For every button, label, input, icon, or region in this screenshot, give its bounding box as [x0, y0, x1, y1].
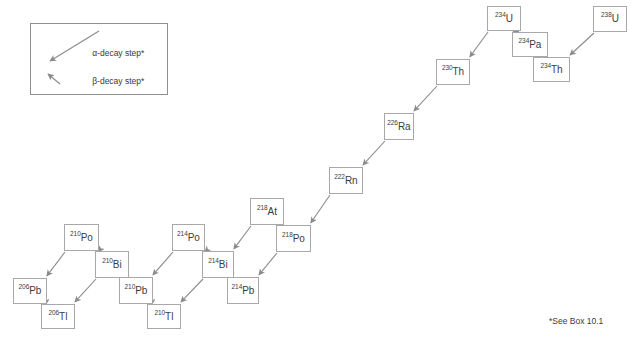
- nuclide-label: 230Th: [442, 67, 464, 77]
- nuclide-box-tl210: 210Tl: [147, 304, 181, 329]
- nuclide-mass-number: 214: [232, 283, 243, 290]
- nuclide-box-po214: 214Po: [172, 224, 205, 251]
- nuclide-label: 218At: [257, 206, 277, 216]
- nuclide-box-tl206: 206Tl: [41, 304, 75, 329]
- nuclide-mass-number: 218: [257, 204, 268, 211]
- alpha-decay-arrow-u234-to-th230: [470, 32, 488, 57]
- nuclide-label: 210Bi: [102, 259, 121, 269]
- nuclide-mass-number: 210: [102, 257, 113, 264]
- nuclide-box-pa234: 234Pa: [512, 32, 548, 57]
- nuclide-element-symbol: Po: [188, 231, 200, 242]
- nuclide-label: 218Po: [282, 233, 305, 243]
- nuclide-label: 234U: [495, 13, 513, 23]
- nuclide-label: 210Pb: [125, 285, 148, 295]
- nuclide-element-symbol: Pb: [135, 284, 147, 295]
- nuclide-box-th230: 230Th: [436, 59, 470, 85]
- nuclide-element-symbol: Th: [452, 66, 464, 77]
- nuclide-element-symbol: Th: [551, 63, 563, 74]
- alpha-decay-arrow-po210-to-pb206: [47, 252, 65, 276]
- nuclide-box-pb214: 214Pb: [227, 277, 259, 304]
- nuclide-mass-number: 210: [70, 230, 81, 237]
- nuclide-element-symbol: Bi: [113, 258, 122, 269]
- nuclide-label: 210Po: [70, 232, 93, 242]
- nuclide-mass-number: 238: [601, 11, 612, 18]
- nuclide-label: 206Pb: [19, 286, 42, 296]
- nuclide-mass-number: 214: [177, 230, 188, 237]
- nuclide-mass-number: 210: [155, 309, 166, 316]
- legend-label-beta: β-decay step*: [92, 76, 144, 86]
- nuclide-box-ra226: 226Ra: [384, 113, 414, 140]
- nuclide-label: 226Ra: [387, 121, 410, 131]
- nuclide-box-u238: 238U: [593, 6, 627, 32]
- nuclide-element-symbol: U: [612, 13, 619, 24]
- nuclide-mass-number: 218: [282, 231, 293, 238]
- nuclide-box-po218: 218Po: [276, 225, 311, 252]
- nuclide-mass-number: 210: [125, 283, 136, 290]
- alpha-decay-arrow-th230-to-ra226: [414, 86, 437, 111]
- nuclide-element-symbol: Po: [81, 231, 93, 242]
- alpha-decay-arrow-ra226-to-rn222: [363, 141, 385, 165]
- nuclide-box-bi214: 214Bi: [202, 251, 234, 278]
- nuclide-element-symbol: U: [506, 12, 513, 23]
- nuclide-mass-number: 214: [208, 257, 219, 264]
- nuclide-label: 234Th: [540, 64, 562, 74]
- nuclide-box-th234: 234Th: [533, 57, 570, 82]
- nuclide-element-symbol: At: [268, 205, 277, 216]
- nuclide-element-symbol: Ra: [398, 120, 411, 131]
- nuclide-mass-number: 206: [19, 283, 30, 290]
- nuclide-mass-number: 222: [334, 173, 345, 180]
- alpha-decay-arrow-po218-to-pb214: [259, 253, 277, 275]
- nuclide-box-at218: 218At: [250, 198, 284, 225]
- alpha-decay-arrow-bi214-to-tl210: [181, 279, 203, 302]
- nuclide-box-pb206: 206Pb: [13, 278, 47, 304]
- footnote-text: *See Box 10.1: [549, 316, 603, 326]
- nuclide-element-symbol: Tl: [59, 310, 67, 321]
- nuclide-mass-number: 226: [387, 119, 398, 126]
- nuclide-element-symbol: Pb: [29, 285, 41, 296]
- nuclide-element-symbol: Po: [293, 232, 305, 243]
- legend-label-alpha: α-decay step*: [92, 48, 144, 58]
- nuclide-mass-number: 206: [49, 309, 60, 316]
- alpha-decay-arrow-bi210-to-tl206: [75, 279, 96, 302]
- nuclide-label: 210Tl: [155, 311, 174, 321]
- nuclide-element-symbol: Rn: [345, 174, 358, 185]
- nuclide-element-symbol: Pa: [529, 38, 541, 49]
- nuclide-label: 214Bi: [208, 259, 227, 269]
- alpha-decay-arrow-po214-to-pb210: [153, 252, 173, 275]
- alpha-decay-arrow-u238-to-th234: [570, 33, 594, 55]
- decay-series-diagram: 238U234Th234Pa234U230Th226Ra222Rn218At21…: [0, 0, 640, 342]
- nuclide-mass-number: 234: [540, 62, 551, 69]
- nuclide-box-bi210: 210Bi: [95, 251, 129, 278]
- nuclide-box-po210: 210Po: [64, 224, 99, 251]
- beta-arrow-icon: [48, 74, 60, 84]
- nuclide-element-symbol: Bi: [219, 258, 228, 269]
- nuclide-mass-number: 230: [442, 64, 453, 71]
- nuclide-mass-number: 234: [519, 37, 530, 44]
- legend-box: α-decay step* β-decay step*: [30, 23, 168, 95]
- nuclide-label: 214Pb: [232, 285, 255, 295]
- alpha-decay-arrow-at218-to-bi214: [234, 226, 251, 249]
- nuclide-label: 214Po: [177, 232, 200, 242]
- alpha-decay-arrow-rn222-to-po218: [311, 195, 330, 223]
- nuclide-box-rn222: 222Rn: [329, 167, 363, 194]
- nuclide-box-pb210: 210Pb: [119, 277, 153, 304]
- nuclide-label: 206Tl: [49, 311, 68, 321]
- nuclide-mass-number: 234: [495, 11, 506, 18]
- nuclide-box-u234: 234U: [487, 6, 521, 31]
- nuclide-element-symbol: Pb: [242, 284, 254, 295]
- nuclide-label: 234Pa: [519, 39, 542, 49]
- nuclide-element-symbol: Tl: [165, 310, 173, 321]
- nuclide-label: 222Rn: [334, 175, 357, 185]
- nuclide-label: 238U: [601, 14, 619, 24]
